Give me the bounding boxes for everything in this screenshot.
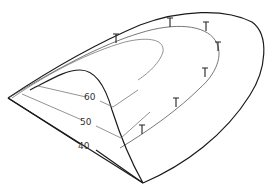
inner-contour	[12, 39, 163, 98]
outer-surface-edge	[8, 13, 264, 183]
t-marker	[173, 98, 179, 107]
marker-curve	[10, 26, 219, 148]
contour-label-60: 60	[84, 92, 96, 102]
t-marker	[203, 22, 209, 31]
t-marker	[202, 68, 208, 77]
t-marker	[167, 18, 173, 27]
contour-label-50: 50	[80, 117, 92, 127]
contour-label-40: 40	[78, 141, 90, 151]
t-marker	[215, 42, 221, 51]
surface-diagram: 60 50 40	[0, 0, 276, 193]
